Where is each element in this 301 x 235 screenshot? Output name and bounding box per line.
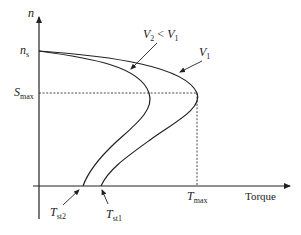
v1-label: V1 — [199, 46, 210, 63]
x-axis-label-text: Torque — [245, 190, 276, 202]
tst1-label: Tst1 — [106, 208, 122, 225]
curve-v1 — [39, 51, 198, 186]
tst1-main: T — [106, 207, 113, 221]
ns-sub: s — [26, 50, 29, 59]
tst2-pointer-arrow — [63, 190, 79, 205]
ns-label: ns — [20, 44, 29, 61]
tst1-sub: st1 — [113, 214, 122, 223]
tst2-sub: st2 — [57, 212, 66, 221]
tmax-label: Tmax — [187, 190, 207, 207]
v2-rhs-sub: 1 — [174, 34, 178, 43]
v1-sub: 1 — [206, 52, 210, 61]
tst2-main: T — [50, 205, 57, 219]
smax-sub: max — [20, 92, 34, 101]
tmax-main: T — [187, 189, 194, 203]
v2-relation: < — [154, 27, 167, 41]
y-axis-label-text: n — [28, 6, 34, 20]
curve-v2 — [39, 51, 150, 186]
tst2-label: Tst2 — [50, 206, 66, 223]
x-axis-label: Torque — [245, 190, 276, 202]
tst1-pointer-arrow — [102, 190, 108, 204]
y-axis-label: n — [28, 7, 34, 19]
v2-label: V2 < V1 — [143, 28, 178, 45]
smax-label: Smax — [14, 86, 34, 103]
tmax-sub: max — [194, 196, 208, 205]
